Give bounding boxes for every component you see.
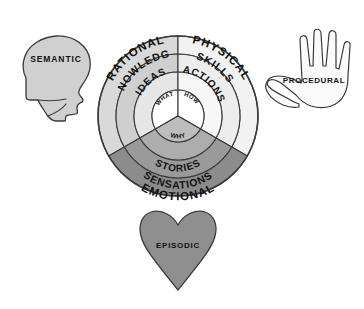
- episodic-label: EPISODIC: [156, 241, 200, 250]
- diagram-canvas: RATIONAL KNOWLEDGE IDEAS PHYSICAL SKILLS…: [0, 0, 364, 309]
- semantic-label: SEMANTIC: [30, 54, 82, 64]
- procedural-label: PROCEDURAL: [283, 76, 345, 85]
- heart-icon: [140, 211, 216, 290]
- hand-icon: [266, 29, 351, 107]
- satellite-episodic[interactable]: EPISODIC: [140, 211, 216, 290]
- satellite-procedural[interactable]: PROCEDURAL: [266, 29, 351, 107]
- memory-wheel-diagram: RATIONAL KNOWLEDGE IDEAS PHYSICAL SKILLS…: [0, 0, 364, 309]
- satellite-semantic[interactable]: SEMANTIC: [23, 36, 90, 121]
- head-profile-icon: [23, 36, 90, 121]
